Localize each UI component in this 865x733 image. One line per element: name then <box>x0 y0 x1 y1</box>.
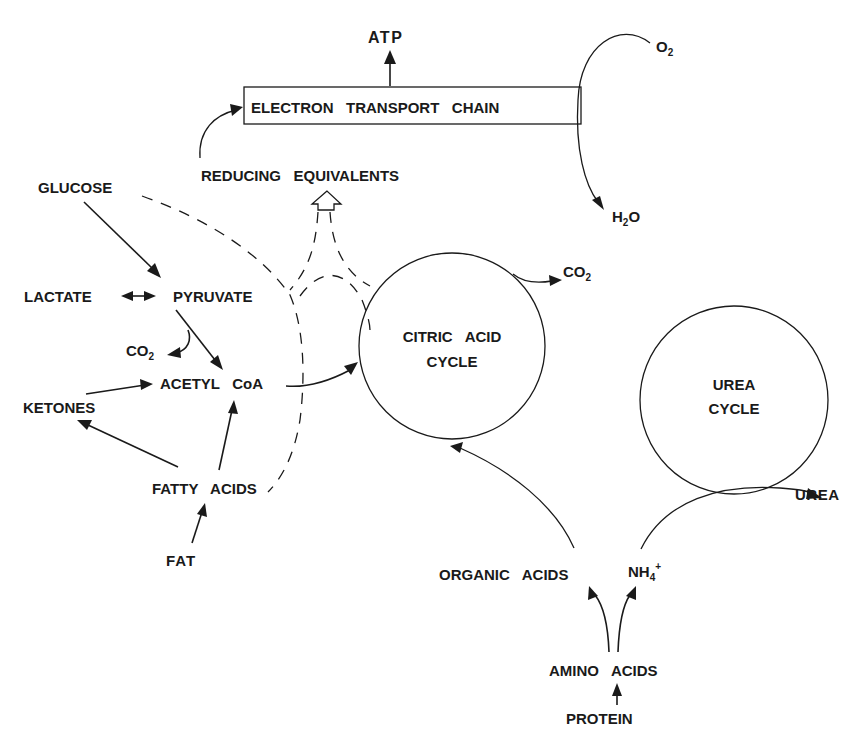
o2-to-h2o-arrow <box>577 34 650 202</box>
arrowhead-icon <box>167 347 181 358</box>
dashed-branch-left <box>290 212 318 290</box>
co2-pyruvate-label: CO2 <box>126 342 155 362</box>
etc-label: ELECTRON TRANSPORT CHAIN <box>251 99 499 116</box>
nh4-to-urea-arrow <box>641 487 812 549</box>
glucose-label: GLUCOSE <box>38 179 112 196</box>
aminoacids-to-organicacids-arrow <box>595 595 609 652</box>
arrowhead-icon <box>384 50 396 64</box>
fat-label: FAT <box>166 552 196 569</box>
fattyacids-to-ketones-arrow <box>88 425 178 467</box>
hollow-arrow-icon <box>312 191 341 210</box>
citric-acid-cycle-label-line1: CITRIC ACID <box>403 328 502 345</box>
atp-label: ATP <box>368 29 403 46</box>
ketones-to-acetylcoa-arrow <box>86 385 145 394</box>
co2-cycle-label: CO2 <box>563 263 592 283</box>
organicacids-to-cycle-arrow <box>460 448 574 548</box>
arrowhead-icon <box>121 291 133 301</box>
electron-transport-chain: ELECTRON TRANSPORT CHAIN <box>244 87 581 124</box>
o2-label: O2 <box>656 38 674 58</box>
fatty-acids-label: FATTY ACIDS <box>152 480 257 497</box>
glucose-to-pyruvate-arrow <box>84 202 152 268</box>
arrowhead-icon <box>549 275 562 286</box>
citric-acid-cycle-circle <box>359 253 545 439</box>
arrowhead-icon <box>612 683 622 696</box>
fat-to-fattyacids-arrow <box>192 512 202 543</box>
arrowhead-icon <box>592 196 604 210</box>
arrowhead-icon <box>228 400 238 414</box>
urea-cycle-label-line1: UREA <box>713 376 756 393</box>
fattyacids-to-acetylcoa-arrow <box>219 410 232 470</box>
h2o-label: H2O <box>612 208 640 228</box>
dashed-arch <box>300 275 370 330</box>
reducing-equivalents-label: REDUCING EQUIVALENTS <box>201 167 399 184</box>
arrowhead-icon <box>144 291 156 301</box>
arrowhead-icon <box>450 442 463 453</box>
arrowhead-icon <box>230 104 243 116</box>
urea-cycle-label-line2: CYCLE <box>709 400 760 417</box>
organic-acids-label: ORGANIC ACIDS <box>439 566 568 583</box>
dashed-branch-right <box>330 212 370 286</box>
reducing-to-etc-arrow <box>200 110 236 158</box>
dashed-pathways <box>142 196 370 492</box>
ketones-label: KETONES <box>23 399 95 416</box>
nh4-label: NH4+ <box>628 561 661 583</box>
aminoacids-to-nh4-arrow <box>618 595 630 652</box>
pyruvate-label: PYRUVATE <box>173 288 252 305</box>
protein-pathways: ORGANIC ACIDS NH4+ AMINO ACIDS PROTEIN <box>439 442 661 727</box>
atp-node: ATP <box>368 29 403 86</box>
amino-acids-label: AMINO ACIDS <box>549 662 658 679</box>
oxygen-to-water: O2 H2O <box>577 34 673 228</box>
urea-cycle: UREA CYCLE UREA <box>640 306 840 549</box>
urea-label: UREA <box>795 486 840 503</box>
citric-acid-cycle-label-line2: CYCLE <box>427 353 478 370</box>
pyruvate-to-acetylcoa-arrow <box>176 310 215 360</box>
glucose-fatty-acid-dashed-path <box>142 196 303 492</box>
acetyl-coa-label: ACETYL CoA <box>160 375 263 392</box>
carbohydrate-fat-pathways: GLUCOSE LACTATE PYRUVATE CO2 ACETYL CoA … <box>23 179 358 569</box>
arrowhead-icon <box>197 503 207 517</box>
metabolism-diagram: ELECTRON TRANSPORT CHAIN ATP O2 H2O REDU… <box>0 0 865 733</box>
arrowhead-icon <box>344 362 358 375</box>
citric-acid-cycle: CITRIC ACID CYCLE CO2 <box>359 253 592 439</box>
reducing-equivalents-node: REDUCING EQUIVALENTS <box>200 104 399 210</box>
arrowhead-icon <box>140 379 153 390</box>
acetylcoa-to-cycle-arrow <box>286 370 350 386</box>
lactate-label: LACTATE <box>24 288 92 305</box>
protein-label: PROTEIN <box>566 710 633 727</box>
